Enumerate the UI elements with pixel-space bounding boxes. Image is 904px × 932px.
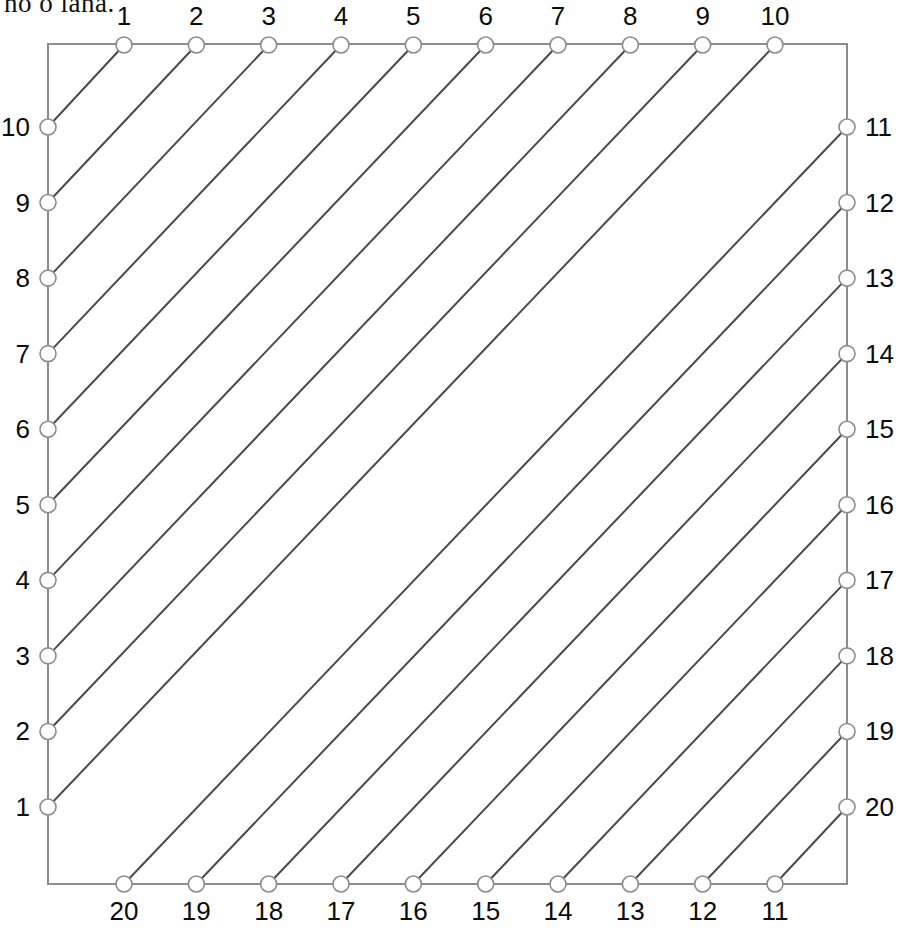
axis-label-right-20: 20: [865, 794, 894, 820]
axis-label-right-12: 12: [865, 190, 894, 216]
axis-label-right-11: 11: [865, 114, 892, 140]
anchor-node-bottom: [695, 876, 711, 892]
anchor-node-right: [839, 648, 855, 664]
axis-label-right-15: 15: [865, 416, 894, 442]
string-art-canvas: [0, 0, 904, 932]
chord-lower-right: [775, 807, 847, 884]
axis-label-right-13: 13: [865, 265, 894, 291]
chord-upper-left: [48, 45, 630, 656]
anchor-nodes: [40, 37, 855, 892]
axis-label-bottom-17: 17: [327, 898, 356, 924]
anchor-node-top: [478, 37, 494, 53]
axis-label-left-6: 6: [16, 416, 30, 442]
axis-label-bottom-11: 11: [762, 898, 789, 924]
chord-upper-left: [48, 45, 703, 731]
axis-label-left-5: 5: [16, 492, 30, 518]
anchor-node-right: [839, 723, 855, 739]
anchor-node-bottom: [261, 876, 277, 892]
chord-lower-right: [486, 505, 847, 884]
axis-label-right-19: 19: [865, 718, 894, 744]
axis-label-top-8: 8: [623, 3, 637, 29]
figure-root: no o lana. 12345678910201918171615141312…: [0, 0, 904, 932]
chord-lower-right: [196, 203, 847, 884]
anchor-node-bottom: [622, 876, 638, 892]
anchor-node-left: [40, 195, 56, 211]
anchor-node-left: [40, 799, 56, 815]
axis-label-top-3: 3: [261, 3, 275, 29]
anchor-node-bottom: [333, 876, 349, 892]
axis-label-right-17: 17: [865, 567, 894, 593]
chord-lower-right: [413, 429, 847, 884]
anchor-node-right: [839, 497, 855, 513]
anchor-node-top: [188, 37, 204, 53]
anchor-node-bottom: [767, 876, 783, 892]
frame-border: [48, 44, 847, 884]
axis-label-left-1: 1: [16, 794, 30, 820]
axis-label-left-8: 8: [16, 265, 30, 291]
anchor-node-right: [839, 346, 855, 362]
axis-label-left-10: 10: [1, 114, 30, 140]
anchor-node-left: [40, 572, 56, 588]
anchor-node-top: [261, 37, 277, 53]
axis-label-top-7: 7: [551, 3, 565, 29]
anchor-node-bottom: [405, 876, 421, 892]
anchor-node-top: [695, 37, 711, 53]
chord-upper-left: [48, 45, 341, 354]
axis-label-bottom-15: 15: [471, 898, 500, 924]
axis-label-bottom-16: 16: [399, 898, 428, 924]
anchor-node-bottom: [478, 876, 494, 892]
chord-lower-right: [630, 656, 847, 884]
anchor-node-left: [40, 723, 56, 739]
axis-label-bottom-20: 20: [110, 898, 139, 924]
chord-lower-right: [341, 354, 847, 884]
axis-label-top-6: 6: [478, 3, 492, 29]
anchor-node-right: [839, 195, 855, 211]
anchor-node-top: [116, 37, 132, 53]
chord-upper-left: [48, 45, 124, 127]
chord-lower-right: [703, 731, 847, 884]
anchor-node-right: [839, 572, 855, 588]
anchor-node-left: [40, 119, 56, 135]
anchor-node-right: [839, 799, 855, 815]
axis-label-top-5: 5: [406, 3, 420, 29]
axis-label-left-7: 7: [16, 341, 30, 367]
chord-upper-left: [48, 45, 558, 580]
anchor-node-left: [40, 497, 56, 513]
anchor-node-right: [839, 421, 855, 437]
anchor-node-right: [839, 119, 855, 135]
chord-upper-left: [48, 45, 196, 203]
anchor-node-top: [622, 37, 638, 53]
axis-label-right-18: 18: [865, 643, 894, 669]
anchor-node-bottom: [550, 876, 566, 892]
anchor-node-top: [405, 37, 421, 53]
anchor-node-bottom: [188, 876, 204, 892]
chord-upper-left: [48, 45, 269, 278]
axis-label-left-4: 4: [16, 567, 30, 593]
anchor-node-left: [40, 421, 56, 437]
axis-label-left-2: 2: [16, 718, 30, 744]
axis-label-bottom-18: 18: [254, 898, 283, 924]
axis-label-right-14: 14: [865, 341, 894, 367]
axis-label-left-9: 9: [16, 190, 30, 216]
anchor-node-top: [550, 37, 566, 53]
anchor-node-left: [40, 270, 56, 286]
axis-label-left-3: 3: [16, 643, 30, 669]
anchor-node-left: [40, 648, 56, 664]
anchor-node-right: [839, 270, 855, 286]
axis-label-bottom-13: 13: [616, 898, 645, 924]
chord-lower-right: [269, 278, 847, 884]
axis-label-top-2: 2: [189, 3, 203, 29]
chord-upper-left: [48, 45, 413, 429]
axis-label-top-9: 9: [695, 3, 709, 29]
axis-label-top-1: 1: [117, 3, 131, 29]
anchor-node-top: [767, 37, 783, 53]
axis-label-bottom-19: 19: [182, 898, 211, 924]
axis-label-bottom-14: 14: [544, 898, 573, 924]
anchor-node-top: [333, 37, 349, 53]
chord-lower-right: [558, 580, 847, 884]
axis-label-bottom-12: 12: [688, 898, 717, 924]
anchor-node-bottom: [116, 876, 132, 892]
chord-upper-left: [48, 45, 775, 807]
anchor-node-left: [40, 346, 56, 362]
axis-label-top-10: 10: [761, 3, 790, 29]
